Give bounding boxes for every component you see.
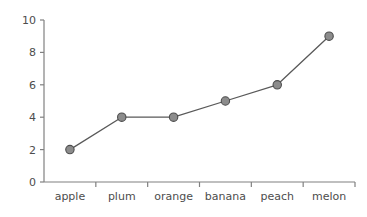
y-axis-tick-label: 6 <box>29 79 36 92</box>
data-point-marker <box>325 32 333 40</box>
x-axis-category-label: banana <box>205 190 246 203</box>
x-axis-category-label: peach <box>260 190 294 203</box>
x-axis-category-label: apple <box>55 190 86 203</box>
line-chart: 0246810 appleplumorangebananapeachmelon <box>0 0 367 217</box>
y-axis-tick-label: 10 <box>22 14 36 27</box>
data-point-marker <box>169 113 177 121</box>
y-axis-tick-label: 8 <box>29 46 36 59</box>
x-axis-category-label: melon <box>312 190 346 203</box>
x-axis-category-label: orange <box>154 190 193 203</box>
data-point-marker <box>273 81 281 89</box>
chart-canvas: 0246810 appleplumorangebananapeachmelon <box>0 0 367 217</box>
data-point-marker <box>66 145 74 153</box>
y-axis-tick-label: 2 <box>29 144 36 157</box>
data-point-marker <box>221 97 229 105</box>
y-axis-tick-label: 0 <box>29 176 36 189</box>
data-point-marker <box>118 113 126 121</box>
x-axis-category-label: plum <box>108 190 136 203</box>
y-axis-tick-label: 4 <box>29 111 36 124</box>
chart-background <box>0 0 367 217</box>
